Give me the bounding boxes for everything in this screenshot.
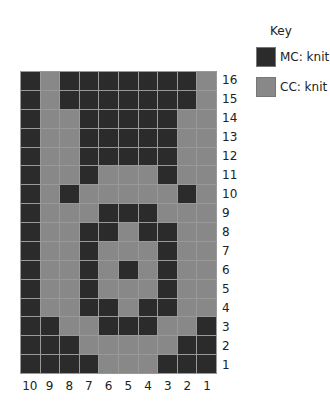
chart-cell (197, 223, 216, 241)
chart-cell (197, 72, 216, 90)
chart-cell (178, 166, 197, 184)
chart-cell (21, 299, 40, 317)
chart-cell (197, 299, 216, 317)
chart-cell (21, 336, 40, 354)
chart-cell (80, 91, 99, 109)
column-label: 8 (59, 380, 79, 392)
chart-cell (139, 129, 158, 147)
chart-cell (158, 72, 177, 90)
chart-cell (119, 355, 138, 373)
chart-cell (119, 280, 138, 298)
chart-cell (60, 223, 79, 241)
chart-cell (41, 223, 60, 241)
row-label: 9 (222, 207, 246, 219)
chart-cell (139, 280, 158, 298)
chart-cell (139, 72, 158, 90)
chart-cell (139, 185, 158, 203)
chart-cell (80, 242, 99, 260)
chart-cell (80, 185, 99, 203)
chart-cell (21, 110, 40, 128)
chart-cell (158, 185, 177, 203)
chart-cell (119, 129, 138, 147)
chart-cell (178, 242, 197, 260)
chart-cell (60, 166, 79, 184)
chart-cell (139, 317, 158, 335)
chart-cell (41, 110, 60, 128)
chart-cell (60, 185, 79, 203)
chart-cell (99, 317, 118, 335)
chart-cell (119, 204, 138, 222)
chart-cell (158, 91, 177, 109)
chart-cell (139, 204, 158, 222)
mc-label: MC: knit (280, 50, 329, 64)
chart-cell (99, 355, 118, 373)
chart-cell (197, 91, 216, 109)
chart-cell (21, 185, 40, 203)
row-label: 12 (222, 150, 246, 162)
chart-cell (158, 317, 177, 335)
chart-cell (178, 110, 197, 128)
row-label: 8 (222, 226, 246, 238)
chart-cell (60, 148, 79, 166)
row-label: 11 (222, 169, 246, 181)
chart-cell (41, 317, 60, 335)
chart-cell (60, 317, 79, 335)
chart-cell (178, 355, 197, 373)
chart-cell (99, 72, 118, 90)
chart-cell (178, 129, 197, 147)
chart-cell (99, 242, 118, 260)
chart-cell (197, 110, 216, 128)
column-label: 2 (178, 380, 198, 392)
chart-cell (41, 242, 60, 260)
chart-cell (178, 148, 197, 166)
row-label: 5 (222, 283, 246, 295)
chart-cell (80, 280, 99, 298)
row-label: 13 (222, 131, 246, 143)
chart-cell (60, 299, 79, 317)
chart-cell (41, 185, 60, 203)
chart-cell (178, 336, 197, 354)
chart-cell (80, 355, 99, 373)
chart-cell (178, 299, 197, 317)
row-label: 15 (222, 93, 246, 105)
knitting-chart-grid (20, 71, 217, 374)
chart-cell (139, 242, 158, 260)
row-label: 4 (222, 302, 246, 314)
chart-cell (80, 336, 99, 354)
chart-cell (41, 280, 60, 298)
chart-cell (60, 204, 79, 222)
chart-cell (197, 336, 216, 354)
chart-cell (119, 261, 138, 279)
chart-cell (21, 261, 40, 279)
chart-cell (80, 148, 99, 166)
column-label: 4 (138, 380, 158, 392)
chart-cell (178, 185, 197, 203)
chart-cell (197, 148, 216, 166)
chart-cell (60, 72, 79, 90)
column-label: 7 (79, 380, 99, 392)
chart-cell (80, 204, 99, 222)
chart-cell (99, 148, 118, 166)
key-title: Key (270, 24, 292, 38)
chart-cell (197, 166, 216, 184)
row-label: 1 (222, 359, 246, 371)
chart-cell (80, 166, 99, 184)
chart-cell (80, 317, 99, 335)
chart-cell (41, 261, 60, 279)
chart-cell (197, 317, 216, 335)
chart-cell (99, 223, 118, 241)
chart-cell (21, 317, 40, 335)
chart-cell (178, 72, 197, 90)
chart-cell (119, 185, 138, 203)
chart-cell (158, 204, 177, 222)
chart-cell (21, 223, 40, 241)
chart-cell (21, 148, 40, 166)
chart-cell (139, 166, 158, 184)
chart-cell (178, 280, 197, 298)
chart-cell (41, 72, 60, 90)
chart-cell (158, 110, 177, 128)
row-label: 14 (222, 112, 246, 124)
column-label: 6 (99, 380, 119, 392)
column-label: 10 (20, 380, 40, 392)
chart-cell (197, 204, 216, 222)
